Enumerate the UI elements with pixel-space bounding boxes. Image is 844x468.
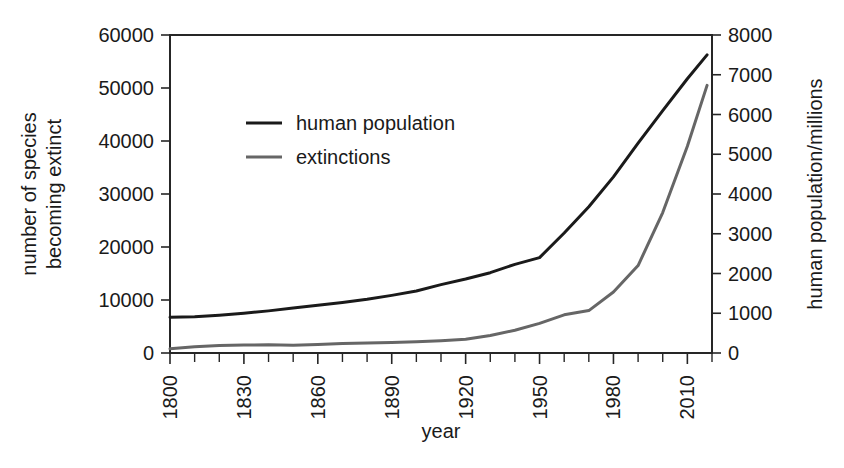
x-ticklabel: 1920 <box>455 375 477 420</box>
x-ticklabel: 1800 <box>159 375 181 420</box>
legend-label-human-population: human population <box>296 112 455 134</box>
y-left-ticklabel: 10000 <box>98 289 154 311</box>
y-axis-right-title: human population/millions <box>804 78 826 309</box>
y-right-ticklabel: 0 <box>728 342 739 364</box>
y-axis-right-ticklabels: 010002000300040005000600070008000 <box>728 24 773 364</box>
x-ticklabel: 2010 <box>676 375 698 420</box>
y-axis-left-ticklabels: 0100002000030000400005000060000 <box>98 24 154 364</box>
axis-frame-path <box>170 35 712 353</box>
x-ticklabel: 1860 <box>307 375 329 420</box>
y-left-ticklabel: 30000 <box>98 183 154 205</box>
y-axis-left-title-line2: becoming extinct <box>43 119 65 270</box>
y-left-ticklabel: 40000 <box>98 130 154 152</box>
y-right-ticklabel: 2000 <box>728 263 773 285</box>
plot-frame <box>170 35 712 353</box>
x-axis-title: year <box>422 420 461 442</box>
x-axis-ticklabels: 18001830186018901920195019802010 <box>159 375 698 420</box>
y-right-ticklabel: 7000 <box>728 64 773 86</box>
y-right-ticklabel: 8000 <box>728 24 773 46</box>
y-right-ticklabel: 3000 <box>728 223 773 245</box>
y-axis-left-ticks <box>161 35 170 353</box>
data-series-group <box>170 55 707 349</box>
figure-container: 0100002000030000400005000060000 01000200… <box>0 0 844 468</box>
x-ticklabel: 1980 <box>602 375 624 420</box>
y-left-ticklabel: 0 <box>143 342 154 364</box>
x-ticklabel: 1830 <box>233 375 255 420</box>
y-right-ticklabel: 6000 <box>728 104 773 126</box>
x-ticklabel: 1950 <box>529 375 551 420</box>
legend: human population extinctions <box>246 112 455 168</box>
y-right-ticklabel: 5000 <box>728 143 773 165</box>
y-right-ticklabel: 1000 <box>728 302 773 324</box>
x-axis-ticks <box>170 353 712 364</box>
x-ticklabel: 1890 <box>381 375 403 420</box>
y-axis-right-ticks <box>712 35 721 353</box>
y-axis-left-title-line1: number of species <box>18 112 40 275</box>
y-left-ticklabel: 60000 <box>98 24 154 46</box>
y-left-ticklabel: 50000 <box>98 77 154 99</box>
extinctions-vs-population-chart: 0100002000030000400005000060000 01000200… <box>0 0 844 468</box>
y-left-ticklabel: 20000 <box>98 236 154 258</box>
y-right-ticklabel: 4000 <box>728 183 773 205</box>
legend-label-extinctions: extinctions <box>296 146 391 168</box>
